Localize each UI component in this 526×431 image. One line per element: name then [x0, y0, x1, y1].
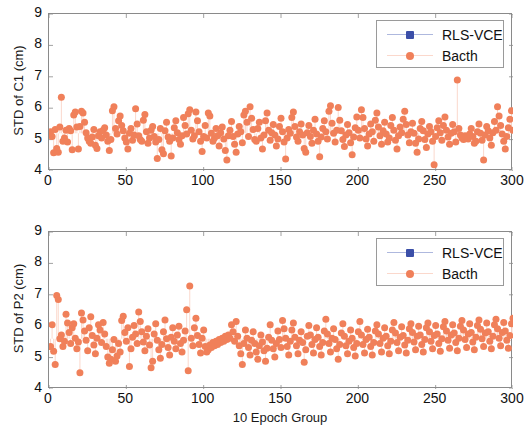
legend-marker-circle-icon	[406, 52, 414, 60]
legend-bottom: RLS-VCEBacth	[376, 238, 504, 286]
legend-label: Bacth	[442, 48, 478, 64]
y-axis-label-bottom: STD of P2 (cm)	[11, 208, 26, 408]
x-tick-label: 300	[492, 390, 526, 406]
legend-marker-square-icon	[406, 31, 414, 39]
legend-marker-square-icon	[406, 249, 414, 257]
x-tick-label: 250	[415, 172, 455, 188]
x-axis-label: 10 Epoch Group	[48, 410, 512, 425]
y-tick-label: 8	[18, 253, 42, 269]
x-tick-label: 100	[183, 390, 223, 406]
x-tick-label: 0	[28, 172, 68, 188]
legend-sample	[387, 267, 433, 281]
y-tick-label: 9	[18, 222, 42, 238]
x-tick-label: 200	[337, 390, 377, 406]
y-tick-label: 6	[18, 98, 42, 114]
legend-marker-circle-icon	[406, 270, 414, 278]
x-tick-label: 50	[105, 390, 145, 406]
x-tick-label: 50	[105, 172, 145, 188]
y-tick-label: 8	[18, 35, 42, 51]
legend-top: RLS-VCEBacth	[376, 20, 504, 68]
x-tick-label: 0	[28, 390, 68, 406]
x-tick-label: 100	[183, 172, 223, 188]
figure-two-stacked-scatter-plots: STD of C1 (cm) 456789 050100150200250300…	[0, 0, 526, 431]
legend-sample	[387, 246, 433, 260]
x-tick-label: 300	[492, 172, 526, 188]
legend-sample	[387, 28, 433, 42]
legend-label: RLS-VCE	[442, 27, 503, 43]
x-tick-label: 200	[337, 172, 377, 188]
legend-label: Bacth	[442, 266, 478, 282]
legend-item-rls-vce[interactable]: RLS-VCE	[377, 242, 503, 263]
chart-panel-top: STD of C1 (cm) 456789 050100150200250300…	[0, 0, 526, 215]
x-tick-label: 250	[415, 390, 455, 406]
y-tick-label: 5	[18, 348, 42, 364]
y-tick-label: 5	[18, 130, 42, 146]
legend-item-bacth[interactable]: Bacth	[377, 45, 503, 66]
x-tick-label: 150	[260, 390, 300, 406]
y-tick-label: 7	[18, 67, 42, 83]
legend-label: RLS-VCE	[442, 245, 503, 261]
y-tick-label: 9	[18, 4, 42, 20]
y-tick-label: 7	[18, 285, 42, 301]
legend-item-rls-vce[interactable]: RLS-VCE	[377, 24, 503, 45]
chart-panel-bottom: STD of P2 (cm) 456789 050100150200250300…	[0, 215, 526, 431]
y-tick-label: 6	[18, 316, 42, 332]
legend-item-bacth[interactable]: Bacth	[377, 263, 503, 284]
legend-sample	[387, 49, 433, 63]
x-tick-label: 150	[260, 172, 300, 188]
